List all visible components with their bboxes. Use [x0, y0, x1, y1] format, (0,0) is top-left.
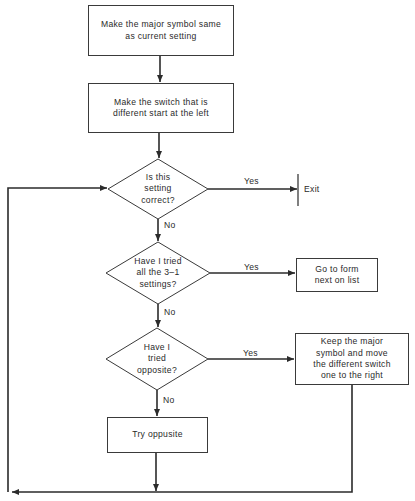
- edge-label-no-decision3: No: [163, 395, 175, 405]
- decision1-label: Is thissettingcorrect?: [118, 170, 198, 208]
- decision3-label: Have Itriedopposite?: [116, 340, 198, 378]
- edge-label-yes-decision2: Yes: [244, 262, 259, 272]
- try-opposite-label: Try oppusite: [108, 418, 207, 452]
- edge-label-yes-decision3: Yes: [243, 348, 258, 358]
- step2-label: Make the switch that isdifferent start a…: [89, 84, 233, 132]
- keep-major-label: Keep the majorsymbol and movethe differe…: [296, 334, 408, 384]
- edge-loop-back-to-decision1: [8, 188, 107, 492]
- step1-label: Make the major symbol sameas current set…: [89, 6, 233, 55]
- exit-label: Exit: [304, 184, 320, 195]
- edge-label-yes-decision1: Yes: [244, 176, 259, 186]
- edge-label-no-decision1: No: [164, 220, 176, 230]
- goto-form-label: Go to formnext on list: [297, 259, 377, 291]
- flowchart-diagram: [0, 0, 415, 501]
- edge-label-no-decision2: No: [164, 307, 176, 317]
- decision2-label: Have I triedall the 3–1settings?: [116, 254, 200, 292]
